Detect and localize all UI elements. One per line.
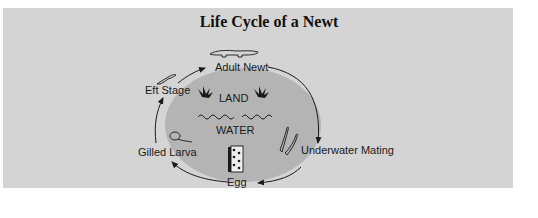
life-cycle-diagram <box>0 0 538 218</box>
zone-label-water: WATER <box>216 124 255 136</box>
stage-label-adult: Adult Newt <box>215 61 268 73</box>
zone-label-land: LAND <box>219 92 248 104</box>
stage-label-egg: Egg <box>227 176 247 188</box>
stage-label-eft: Eft Stage <box>145 84 190 96</box>
stage-label-mating: Underwater Mating <box>301 144 394 156</box>
adult-newt-icon <box>210 50 258 57</box>
egg-mass-icon <box>228 146 243 172</box>
stage-label-larva: Gilled Larva <box>138 146 197 158</box>
arrow-larva-to-eft <box>155 98 163 143</box>
eft-icon <box>157 75 176 84</box>
